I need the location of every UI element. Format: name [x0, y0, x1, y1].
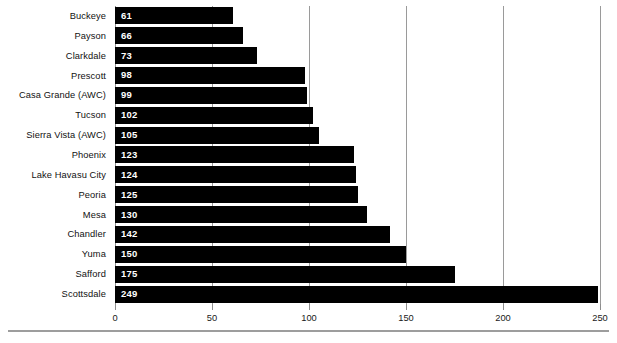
- bar: 61: [115, 7, 233, 24]
- bar-row: 102: [115, 105, 600, 125]
- value-axis: 050100150200250: [115, 304, 600, 330]
- tick-label-250: 250: [592, 313, 608, 323]
- tick-mark-100: [309, 304, 310, 310]
- tick-mark-250: [600, 304, 601, 310]
- bar-value-label: 150: [121, 250, 137, 260]
- bar: 249: [115, 286, 598, 303]
- bar-row: 66: [115, 26, 600, 46]
- bar: 105: [115, 127, 319, 144]
- tick-label-50: 50: [207, 313, 217, 323]
- bar-value-label: 73: [121, 51, 132, 61]
- category-label: Sierra Vista (AWC): [26, 125, 106, 145]
- bar-value-label: 99: [121, 91, 132, 101]
- bar-value-label: 123: [121, 150, 137, 160]
- category-label: Mesa: [83, 205, 106, 225]
- bar: 99: [115, 87, 307, 104]
- bar-row: 98: [115, 66, 600, 86]
- bar-row: 99: [115, 85, 600, 105]
- bar-row: 124: [115, 165, 600, 185]
- bar: 175: [115, 266, 455, 283]
- tick-label-100: 100: [301, 313, 317, 323]
- bar-value-label: 124: [121, 170, 137, 180]
- bar: 73: [115, 47, 257, 64]
- tick-mark-0: [115, 304, 116, 310]
- category-label: Yuma: [82, 244, 106, 264]
- bar-row: 249: [115, 284, 600, 304]
- category-label: Clarkdale: [66, 46, 106, 66]
- bottom-divider: [8, 330, 609, 332]
- bar-value-label: 66: [121, 31, 132, 41]
- bar-row: 175: [115, 264, 600, 284]
- bar-value-label: 125: [121, 190, 137, 200]
- bar: 142: [115, 226, 390, 243]
- category-label: Scottsdale: [62, 284, 106, 304]
- bar-value-label: 98: [121, 71, 132, 81]
- bar-value-label: 61: [121, 11, 132, 21]
- bar: 66: [115, 27, 243, 44]
- tick-mark-50: [212, 304, 213, 310]
- bar-row: 125: [115, 185, 600, 205]
- bar-row: 73: [115, 46, 600, 66]
- bar: 123: [115, 146, 354, 163]
- tick-label-200: 200: [495, 313, 511, 323]
- category-axis: BuckeyePaysonClarkdalePrescottCasa Grand…: [0, 6, 106, 304]
- plot-area: 6166739899102105123124125130142150175249: [115, 6, 600, 304]
- bar-row: 130: [115, 205, 600, 225]
- category-label: Prescott: [71, 66, 106, 86]
- bar: 150: [115, 246, 406, 263]
- bar: 125: [115, 186, 358, 203]
- tick-label-0: 0: [112, 313, 117, 323]
- bar-chart: BuckeyePaysonClarkdalePrescottCasa Grand…: [0, 0, 617, 343]
- category-label: Buckeye: [70, 6, 106, 26]
- bar: 124: [115, 166, 356, 183]
- bar: 98: [115, 67, 305, 84]
- bar-value-label: 105: [121, 130, 137, 140]
- category-label: Peoria: [79, 185, 106, 205]
- tick-label-150: 150: [398, 313, 414, 323]
- bar-value-label: 130: [121, 210, 137, 220]
- tick-mark-200: [503, 304, 504, 310]
- category-label: Phoenix: [72, 145, 106, 165]
- bar-value-label: 175: [121, 269, 137, 279]
- gridline-250: [600, 6, 601, 304]
- bar-row: 142: [115, 225, 600, 245]
- category-label: Chandler: [67, 225, 106, 245]
- tick-mark-150: [406, 304, 407, 310]
- category-label: Casa Grande (AWC): [19, 85, 106, 105]
- category-label: Tucson: [75, 105, 106, 125]
- bar-row: 150: [115, 244, 600, 264]
- category-label: Payson: [74, 26, 106, 46]
- bar-row: 105: [115, 125, 600, 145]
- bar-row: 61: [115, 6, 600, 26]
- bar: 130: [115, 206, 367, 223]
- bar: 102: [115, 107, 313, 124]
- category-label: Safford: [75, 264, 106, 284]
- category-label: Lake Havasu City: [32, 165, 106, 185]
- bar-series: 6166739899102105123124125130142150175249: [115, 6, 600, 304]
- bar-value-label: 102: [121, 110, 137, 120]
- bar-row: 123: [115, 145, 600, 165]
- bar-value-label: 142: [121, 230, 137, 240]
- bar-value-label: 249: [121, 289, 137, 299]
